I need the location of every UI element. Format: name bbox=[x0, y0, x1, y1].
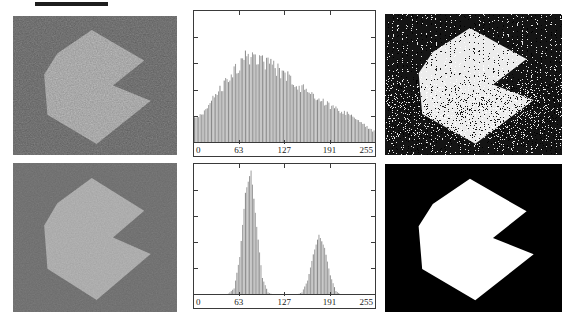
x-tick-label: 191 bbox=[323, 145, 337, 155]
histogram-bars bbox=[194, 164, 375, 295]
thresholded-noisy-panel bbox=[385, 14, 562, 155]
axis-tick bbox=[239, 11, 240, 15]
axis-tick bbox=[239, 164, 240, 168]
axis-tick bbox=[371, 37, 375, 38]
smoothed-image bbox=[13, 163, 177, 312]
x-axis: 0 63 127 191 255 bbox=[194, 294, 375, 308]
axis-tick bbox=[330, 164, 331, 168]
noise-overlay bbox=[13, 16, 177, 155]
x-tick-label: 255 bbox=[360, 145, 374, 155]
histogram-plot-area bbox=[194, 164, 375, 295]
x-tick-label: 0 bbox=[196, 297, 201, 307]
x-tick-label: 255 bbox=[360, 297, 374, 307]
axis-tick bbox=[194, 216, 198, 217]
axis-tick bbox=[239, 140, 240, 144]
x-tick-label: 127 bbox=[277, 297, 291, 307]
x-tick-label: 0 bbox=[196, 145, 201, 155]
axis-tick bbox=[371, 90, 375, 91]
thresholded-clean-panel bbox=[385, 164, 562, 312]
axis-tick bbox=[194, 268, 198, 269]
smoothed-image-panel bbox=[13, 163, 177, 312]
axis-tick bbox=[284, 140, 285, 144]
x-tick-label: 63 bbox=[234, 297, 243, 307]
noise-overlay bbox=[13, 163, 177, 312]
axis-tick bbox=[371, 63, 375, 64]
axis-tick bbox=[284, 11, 285, 15]
histogram-noisy-panel: 0 63 127 191 255 bbox=[193, 10, 376, 157]
noisy-image bbox=[13, 16, 177, 155]
thresholded-noisy-image bbox=[385, 14, 562, 155]
x-tick-label: 127 bbox=[277, 145, 291, 155]
axis-tick bbox=[371, 190, 375, 191]
axis-tick bbox=[371, 242, 375, 243]
axis-tick bbox=[194, 63, 198, 64]
histogram-plot-area bbox=[194, 11, 375, 143]
axis-tick bbox=[239, 292, 240, 296]
x-tick-label: 63 bbox=[234, 145, 243, 155]
axis-tick bbox=[371, 216, 375, 217]
axis-tick bbox=[371, 268, 375, 269]
axis-tick bbox=[371, 116, 375, 117]
axis-tick bbox=[194, 116, 198, 117]
crop-artifact-bar bbox=[35, 2, 108, 6]
axis-tick bbox=[284, 292, 285, 296]
axis-tick bbox=[194, 190, 198, 191]
axis-tick bbox=[194, 37, 198, 38]
histogram-smoothed-panel: 0 63 127 191 255 bbox=[193, 163, 376, 309]
binary-segmented-image bbox=[385, 164, 562, 312]
axis-tick bbox=[330, 292, 331, 296]
salt-pepper-noise-overlay bbox=[385, 14, 562, 155]
x-axis: 0 63 127 191 255 bbox=[194, 142, 375, 156]
axis-tick bbox=[330, 140, 331, 144]
axis-tick bbox=[194, 90, 198, 91]
histogram-bars bbox=[194, 11, 375, 143]
axis-tick bbox=[330, 11, 331, 15]
axis-tick bbox=[284, 164, 285, 168]
figure-canvas: 0 63 127 191 255 0 63 127 bbox=[0, 0, 566, 322]
noisy-image-panel bbox=[13, 16, 177, 155]
x-tick-label: 191 bbox=[323, 297, 337, 307]
axis-tick bbox=[194, 242, 198, 243]
